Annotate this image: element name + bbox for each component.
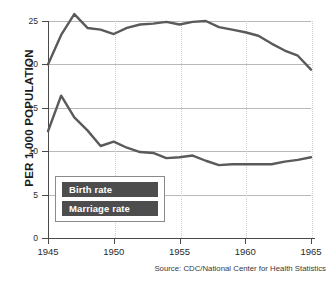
y-axis-tick-label: 10 [10,146,38,156]
y-axis-tick [42,21,48,22]
y-axis-tick-label: 20 [10,59,38,69]
legend-item-marriage-rate: Marriage rate [62,201,158,216]
y-axis-tick-label: 5 [10,190,38,200]
x-axis-tick-label: 1955 [160,246,200,257]
x-axis-tick [245,238,246,244]
source-note: Source: CDC/National Center for Health S… [0,264,326,273]
chart-legend: Birth rate Marriage rate [55,176,165,222]
x-axis-tick-label: 1950 [94,246,134,257]
series-layer [0,0,332,283]
legend-item-birth-rate: Birth rate [62,182,158,197]
legend-label-birth-rate: Birth rate [62,184,112,195]
x-axis-tick-label: 1960 [225,246,265,257]
x-axis-tick-label: 1945 [28,246,68,257]
x-axis-tick [311,238,312,244]
series-line-birth-rate [48,14,311,70]
y-axis-tick-label: 15 [10,103,38,113]
x-axis-tick [48,238,49,244]
line-chart: PER 1,000 POPULATION 0510152025194519501… [0,0,332,283]
series-line-marriage-rate [48,96,311,165]
x-axis-tick [114,238,115,244]
x-axis-tick [180,238,181,244]
y-axis-tick [42,151,48,152]
y-axis-tick [42,108,48,109]
legend-label-marriage-rate: Marriage rate [62,203,130,214]
y-axis-tick [42,195,48,196]
y-axis-tick-label: 0 [10,233,38,243]
x-axis-tick-label: 1965 [291,246,331,257]
y-axis-tick [42,64,48,65]
y-axis-tick-label: 25 [10,16,38,26]
